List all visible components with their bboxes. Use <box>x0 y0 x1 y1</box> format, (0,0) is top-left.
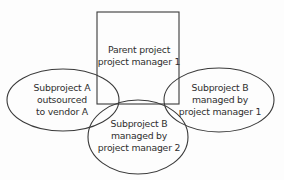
parent-project-label: Parent project project manager 1 <box>98 44 180 68</box>
parent-project-line-1: Parent project <box>98 44 180 56</box>
subproject-b-pm2-line-3: project manager 2 <box>98 142 180 154</box>
subproject-b-pm1-line-1: Subproject B <box>179 82 261 94</box>
subproject-a-line-1: Subproject A <box>34 82 91 94</box>
subproject-b-pm1-line-3: project manager 1 <box>179 106 261 118</box>
subproject-a-line-3: to vendor A <box>34 106 91 118</box>
subproject-b-pm2-label: Subproject B managed by project manager … <box>98 118 180 154</box>
subproject-b-pm2-line-2: managed by <box>98 130 180 142</box>
subproject-a-label: Subproject A outsourced to vendor A <box>34 82 91 118</box>
subproject-b-pm1-label: Subproject B managed by project manager … <box>179 82 261 118</box>
parent-project-line-2: project manager 1 <box>98 56 180 68</box>
subproject-b-pm1-line-2: managed by <box>179 94 261 106</box>
subproject-b-pm2-line-1: Subproject B <box>98 118 180 130</box>
subproject-a-line-2: outsourced <box>34 94 91 106</box>
project-structure-diagram: Parent project project manager 1 Subproj… <box>0 0 284 180</box>
